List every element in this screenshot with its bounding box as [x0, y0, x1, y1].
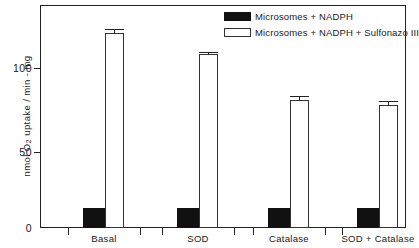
- y-tick-label-100: 100: [2, 62, 32, 74]
- legend-label-microsomes-nadph: Microsomes + NADPH: [255, 11, 353, 22]
- error-bar-sod: [199, 52, 218, 55]
- bar-light-sod: [199, 54, 218, 228]
- x-label-sod: SOD: [162, 233, 234, 244]
- x-label-basal: Basal: [68, 233, 140, 244]
- error-bar-stem: [208, 52, 209, 55]
- bar-light-sod-catalase: [379, 105, 398, 228]
- x-label-sod-catalase: SOD + Catalase: [338, 233, 418, 244]
- error-bar-basal: [105, 29, 124, 34]
- bar-light-catalase: [290, 100, 309, 228]
- y-axis-title: nmol O2 uptake / min - mg: [21, 21, 33, 211]
- error-bar-stem: [299, 96, 300, 101]
- bar-dark-sod: [177, 208, 199, 228]
- y-tick-label-50: 50: [2, 146, 32, 158]
- open-square-icon: [224, 28, 251, 37]
- x-tick-mark-2: [140, 228, 141, 235]
- bar-dark-catalase: [268, 208, 290, 228]
- x-tick-mark-6: [325, 228, 326, 235]
- legend-item-microsomes-nadph: Microsomes + NADPH: [224, 9, 400, 23]
- error-bar-stem: [114, 29, 115, 34]
- legend: Microsomes + NADPH Microsomes + NADPH + …: [224, 9, 400, 41]
- error-bar-catalase: [290, 96, 309, 101]
- bar-dark-basal: [83, 208, 105, 228]
- dark-square-icon: [224, 12, 251, 21]
- x-label-catalase: Catalase: [253, 233, 325, 244]
- legend-item-microsomes-nadph-sulfonazo: Microsomes + NADPH + Sulfonazo III: [224, 25, 400, 39]
- error-bar-sod-catalase: [379, 101, 398, 106]
- error-bar-stem: [388, 101, 389, 106]
- bar-chart-figure: nmol O2 uptake / min - mg 100 50 0 Ba: [0, 0, 419, 248]
- bar-light-basal: [105, 33, 124, 228]
- y-tick-label-0: 0: [2, 222, 32, 234]
- legend-label-microsomes-nadph-sulfonazo: Microsomes + NADPH + Sulfonazo III: [255, 27, 419, 38]
- y-axis-title-subscript: 2: [24, 139, 33, 144]
- x-tick-mark-4: [234, 228, 235, 235]
- bar-dark-sod-catalase: [357, 208, 379, 228]
